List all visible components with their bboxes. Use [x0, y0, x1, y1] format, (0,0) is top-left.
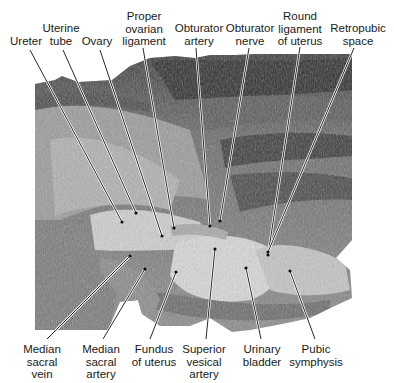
- label-median-sacral-artery: Mediansacralartery: [82, 343, 120, 381]
- leader-pointer-fundus-of-uterus: [174, 270, 177, 273]
- label-line: Proper: [122, 10, 165, 23]
- label-line: ovarian: [122, 23, 165, 36]
- label-line: sacral: [82, 356, 120, 369]
- leader-pointer-obturator-nerve: [218, 219, 221, 222]
- label-line: Uterine: [42, 22, 79, 35]
- label-line: Urinary: [243, 343, 281, 356]
- label-line: Ureter: [10, 35, 42, 48]
- label-line: of uterus: [132, 356, 177, 369]
- label-line: Ovary: [82, 35, 113, 48]
- label-line: tube: [42, 35, 79, 48]
- label-proper-ovarian-ligament: Properovarianligament: [122, 10, 165, 48]
- leader-pointer-round-ligament-of-uterus: [266, 253, 269, 256]
- leader-pointer-median-sacral-vein: [128, 254, 131, 257]
- leader-pointer-urinary-bladder: [244, 266, 247, 269]
- label-line: ligament: [278, 23, 323, 36]
- label-line: symphysis: [289, 356, 343, 369]
- label-pubic-symphysis: Pubicsymphysis: [289, 343, 343, 368]
- label-line: Median: [23, 343, 61, 356]
- label-line: space: [330, 35, 386, 48]
- label-line: artery: [182, 368, 225, 381]
- label-line: vesical: [182, 356, 225, 369]
- label-line: of uterus: [278, 35, 323, 48]
- label-line: nerve: [226, 35, 275, 48]
- label-urinary-bladder: Urinarybladder: [243, 343, 281, 368]
- label-line: artery: [82, 368, 120, 381]
- label-line: bladder: [243, 356, 281, 369]
- leader-pointer-pubic-symphysis: [288, 269, 291, 272]
- leader-pointer-proper-ovarian-ligament: [172, 226, 175, 229]
- label-uterine-tube: Uterinetube: [42, 22, 79, 47]
- label-line: Median: [82, 343, 120, 356]
- anatomy-figure: UreterUterinetubeOvaryProperovarianligam…: [0, 0, 394, 383]
- label-ovary: Ovary: [82, 35, 113, 48]
- label-line: Obturator: [226, 22, 275, 35]
- leader-pointer-obturator-artery: [208, 224, 211, 227]
- label-line: Superior: [182, 343, 225, 356]
- label-line: artery: [175, 35, 224, 48]
- label-line: vein: [23, 368, 61, 381]
- label-line: Obturator: [175, 22, 224, 35]
- label-retropubic-space: Retropubicspace: [330, 22, 386, 47]
- label-median-sacral-vein: Mediansacralvein: [23, 343, 61, 381]
- label-line: sacral: [23, 356, 61, 369]
- label-obturator-nerve: Obturatornerve: [226, 22, 275, 47]
- label-line: Round: [278, 10, 323, 23]
- pelvis-dissection-photo: [0, 0, 394, 383]
- label-line: Retropubic: [330, 22, 386, 35]
- label-obturator-artery: Obturatorartery: [175, 22, 224, 47]
- label-ureter: Ureter: [10, 35, 42, 48]
- leader-pointer-ureter: [120, 220, 123, 223]
- label-round-ligament-of-uterus: Roundligamentof uterus: [278, 10, 323, 48]
- label-fundus-of-uterus: Fundusof uterus: [132, 343, 177, 368]
- leader-pointer-retropubic-space: [266, 250, 269, 253]
- label-line: Fundus: [132, 343, 177, 356]
- label-line: Pubic: [289, 343, 343, 356]
- leader-pointer-superior-vesical-artery: [213, 247, 216, 250]
- leader-pointer-median-sacral-artery: [143, 267, 146, 270]
- leader-pointer-uterine-tube: [134, 211, 137, 214]
- label-line: ligament: [122, 35, 165, 48]
- leader-pointer-ovary: [160, 234, 163, 237]
- label-superior-vesical-artery: Superiorvesicalartery: [182, 343, 225, 381]
